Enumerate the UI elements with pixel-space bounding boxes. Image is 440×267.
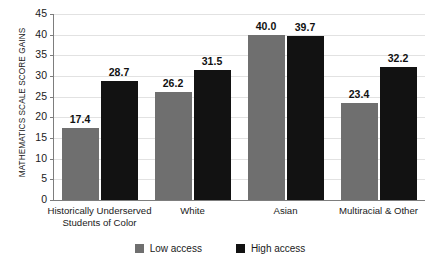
bar-high-access: [101, 81, 138, 200]
y-tick-label: 15: [25, 131, 47, 143]
y-tick-label: 5: [25, 172, 47, 184]
bar-value-label: 31.5: [194, 55, 231, 67]
y-axis-line: [53, 14, 54, 200]
y-tick-mark: [50, 138, 53, 139]
y-tick-label: 25: [25, 90, 47, 102]
y-tick-mark: [50, 117, 53, 118]
legend-swatch-icon: [135, 244, 144, 253]
legend-label: Low access: [150, 243, 202, 254]
category-label-line2: Students of Color: [39, 217, 160, 229]
gridline: [54, 14, 425, 15]
y-tick-label: 40: [25, 28, 47, 40]
bar-high-access: [287, 36, 324, 200]
legend-item-high-access[interactable]: High access: [236, 243, 305, 254]
legend-swatch-icon: [236, 244, 245, 253]
bar-high-access: [380, 67, 417, 200]
bar-value-label: 39.7: [287, 21, 324, 33]
gridline: [54, 35, 425, 36]
y-tick-label: 45: [25, 7, 47, 19]
y-tick-mark: [50, 76, 53, 77]
category-label-line1: Multiracial & Other: [339, 205, 418, 216]
bar-value-label: 26.2: [155, 77, 192, 89]
y-tick-mark: [50, 179, 53, 180]
bar-value-label: 17.4: [62, 113, 99, 125]
bar-low-access: [248, 35, 285, 200]
bar-value-label: 23.4: [341, 88, 378, 100]
y-tick-mark: [50, 35, 53, 36]
bar-low-access: [341, 103, 378, 200]
bar-low-access: [155, 92, 192, 200]
y-tick-label: 0: [25, 193, 47, 205]
y-tick-label: 10: [25, 152, 47, 164]
category-label-line1: Asian: [274, 205, 298, 216]
x-axis-line: [53, 200, 425, 201]
bar-value-label: 28.7: [101, 66, 138, 78]
gridline: [54, 55, 425, 56]
category-label-line1: White: [180, 205, 205, 216]
legend-item-low-access[interactable]: Low access: [135, 243, 202, 254]
y-tick-mark: [50, 14, 53, 15]
bar-value-label: 40.0: [248, 20, 285, 32]
y-tick-mark: [50, 200, 53, 201]
chart-legend: Low accessHigh access: [0, 243, 440, 254]
category-label: Multiracial & Other: [318, 205, 439, 217]
bar-value-label: 32.2: [380, 52, 417, 64]
y-tick-mark: [50, 159, 53, 160]
y-tick-label: 35: [25, 48, 47, 60]
bar-chart: MATHEMATICS SCALE SCORE GAINS 0510152025…: [0, 0, 440, 267]
y-tick-mark: [50, 97, 53, 98]
y-tick-label: 20: [25, 110, 47, 122]
plot-area: 051015202530354045 17.428.726.231.540.03…: [53, 14, 425, 200]
bar-high-access: [194, 70, 231, 200]
y-tick-label: 30: [25, 69, 47, 81]
legend-label: High access: [251, 243, 305, 254]
bar-low-access: [62, 128, 99, 200]
y-tick-mark: [50, 55, 53, 56]
